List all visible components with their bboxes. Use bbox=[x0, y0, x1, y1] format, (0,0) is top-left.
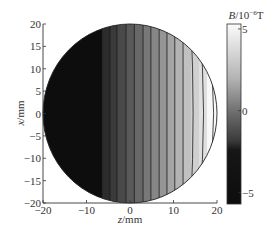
contour-band bbox=[110, 22, 117, 205]
contour-chart: 50−5B/10−6T −20−15−10−505101520−20−10010… bbox=[0, 0, 273, 238]
x-tick-label: 10 bbox=[168, 204, 180, 216]
contour-band bbox=[191, 22, 200, 205]
x-tick-label: −20 bbox=[34, 204, 52, 216]
plot-area bbox=[43, 22, 226, 205]
contour-band bbox=[167, 22, 175, 205]
colorbar-gradient bbox=[227, 24, 241, 204]
contour-band bbox=[175, 22, 184, 205]
contour-band bbox=[43, 22, 103, 205]
y-axis-label: x/mm bbox=[14, 100, 26, 127]
contour-band bbox=[134, 22, 143, 205]
colorbar: 50−5B/10−6T bbox=[227, 9, 264, 204]
x-tick-label: −10 bbox=[78, 204, 96, 216]
colorbar-label: B/10−6T bbox=[229, 9, 264, 21]
x-tick-label: 20 bbox=[212, 204, 224, 216]
colorbar-tick-label: 5 bbox=[242, 23, 248, 35]
y-tick-label: 20 bbox=[30, 18, 42, 30]
y-tick-label: 15 bbox=[30, 40, 42, 52]
y-tick-label: 5 bbox=[36, 85, 42, 97]
y-tick-label: 0 bbox=[36, 108, 42, 120]
colorbar-tick-label: −5 bbox=[242, 187, 254, 199]
contour-band bbox=[126, 22, 135, 205]
y-tick-label: −10 bbox=[24, 152, 42, 164]
x-axis-label: z/mm bbox=[117, 213, 143, 225]
contour-band bbox=[159, 22, 167, 205]
y-tick-label: −5 bbox=[29, 130, 41, 142]
colorbar-tick-label: 0 bbox=[242, 105, 248, 117]
contour-band bbox=[151, 22, 160, 205]
y-tick-label: −15 bbox=[24, 175, 42, 187]
contour-band bbox=[102, 22, 110, 205]
contour-band bbox=[117, 22, 127, 205]
contour-band bbox=[143, 22, 151, 205]
y-tick-label: 10 bbox=[30, 63, 42, 75]
